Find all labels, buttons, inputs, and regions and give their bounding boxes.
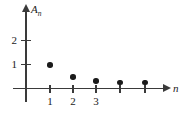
x-tick-mark-5 — [144, 85, 145, 93]
x-tick-label-3: 3 — [89, 96, 103, 107]
data-point — [142, 80, 148, 86]
x-tick-label-1: 1 — [43, 96, 57, 107]
x-axis-label: n — [173, 83, 179, 94]
x-axis-arrow-icon — [163, 84, 171, 92]
sequence-plot-figure: An n 2 1 1 2 3 — [0, 0, 186, 118]
x-tick-mark-4 — [119, 85, 120, 93]
y-tick-label-2: 2 — [5, 35, 17, 46]
y-axis-arrow-icon — [22, 4, 30, 12]
x-tick-mark-3 — [95, 85, 96, 93]
data-point — [70, 74, 76, 80]
x-tick-mark-1 — [49, 85, 50, 93]
y-axis-label: An — [31, 4, 41, 19]
x-tick-mark-2 — [72, 85, 73, 93]
y-axis-label-main: A — [31, 3, 38, 15]
data-point — [117, 80, 123, 86]
y-tick-mark-2 — [21, 40, 31, 41]
y-axis-label-subscript: n — [38, 9, 42, 18]
x-tick-label-2: 2 — [66, 96, 80, 107]
x-axis-line — [13, 88, 165, 90]
y-tick-mark-1 — [21, 64, 31, 65]
data-point — [47, 62, 53, 68]
y-tick-label-1: 1 — [5, 59, 17, 70]
data-point — [93, 78, 99, 84]
